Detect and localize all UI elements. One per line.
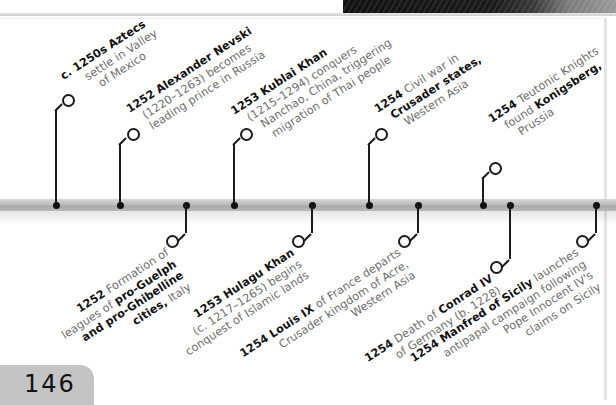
marker-ring-icon: [490, 261, 503, 274]
marker-ring-icon: [375, 128, 388, 141]
marker-dot-icon: [231, 202, 238, 209]
top-rule-thin: [0, 18, 605, 19]
timeline-bar: [0, 199, 616, 211]
marker-ring-icon: [489, 162, 502, 175]
marker-dot-icon: [53, 202, 60, 209]
marker-ring-icon: [166, 235, 179, 248]
marker-ring-icon: [127, 128, 140, 141]
marker-dot-icon: [366, 202, 373, 209]
marker-ring-icon: [292, 235, 305, 248]
marker-ring-icon: [398, 235, 411, 248]
event-teutonic: 1254 Teutonic Knights found Konigsberg, …: [486, 44, 616, 148]
header-photo: [343, 0, 616, 13]
top-rule: [0, 13, 616, 16]
marker-dot-icon: [117, 202, 124, 209]
marker-ring-icon: [576, 235, 589, 248]
page-number: 146: [24, 370, 76, 398]
marker-dot-icon: [480, 202, 487, 209]
timeline-bar-shadow: [0, 211, 616, 225]
event-guelph: 1252 Formation of leagues of pro-Guelph …: [51, 246, 193, 364]
